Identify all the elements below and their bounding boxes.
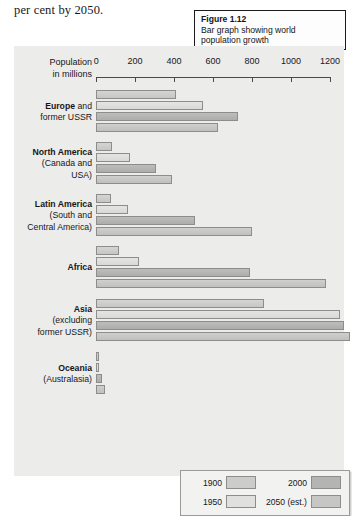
bar-1950-group-1 bbox=[96, 153, 130, 162]
bar-1950-group-2 bbox=[96, 205, 128, 214]
x-axis-tick-label-0: 0 bbox=[94, 56, 99, 66]
x-axis-tick-1200 bbox=[330, 77, 331, 82]
x-axis-tick-label-200: 200 bbox=[127, 56, 142, 66]
group-label-2: Latin America(South andCentral America) bbox=[14, 199, 92, 233]
x-axis-tick-1000 bbox=[291, 77, 292, 82]
bar-1900-group-4 bbox=[96, 299, 264, 308]
legend-label-3: 2050 (est.) bbox=[253, 497, 307, 507]
bar-2050-est--group-5 bbox=[96, 385, 105, 394]
x-axis-tick-label-1200: 1200 bbox=[320, 56, 340, 66]
x-axis-tick-400 bbox=[174, 77, 175, 82]
group-label-3: Africa bbox=[14, 262, 92, 273]
bar-1900-group-5 bbox=[96, 352, 99, 361]
bar-1950-group-5 bbox=[96, 363, 99, 372]
x-axis-tick-600 bbox=[213, 77, 214, 82]
legend-swatch-3 bbox=[311, 495, 341, 508]
bar-1900-group-3 bbox=[96, 246, 119, 255]
bar-2050-est--group-3 bbox=[96, 279, 326, 288]
bar-2000-group-0 bbox=[96, 112, 238, 121]
legend-label-0: 1900 bbox=[191, 478, 222, 488]
figure-caption-title: Figure 1.12 bbox=[201, 14, 340, 25]
axis-caption-line-1: Population bbox=[16, 56, 92, 68]
group-label-4: Asia(excludingformer USSR) bbox=[14, 304, 92, 338]
chart-panel: Population in millions 02004006008001000… bbox=[14, 46, 344, 476]
x-axis-tick-label-800: 800 bbox=[244, 56, 259, 66]
group-label-5: Oceania(Australasia) bbox=[14, 363, 92, 385]
x-axis-tick-label-400: 400 bbox=[166, 56, 181, 66]
figure-caption-line-2: population growth bbox=[201, 35, 340, 45]
bar-1950-group-0 bbox=[96, 101, 203, 110]
axis-caption-line-2: in millions bbox=[16, 68, 92, 80]
group-label-0: Europe andformer USSR bbox=[14, 101, 92, 123]
figure-caption-box: Figure 1.12 Bar graph showing world popu… bbox=[194, 10, 346, 50]
figure-caption-line-1: Bar graph showing world bbox=[201, 25, 340, 35]
legend-swatch-2 bbox=[311, 476, 341, 489]
bar-2050-est--group-1 bbox=[96, 175, 172, 184]
legend-label-2: 2000 bbox=[269, 478, 307, 488]
bar-1950-group-4 bbox=[96, 310, 340, 319]
legend-label-1: 1950 bbox=[191, 497, 222, 507]
bar-1900-group-0 bbox=[96, 90, 176, 99]
bar-1900-group-1 bbox=[96, 142, 112, 151]
bar-2000-group-4 bbox=[96, 321, 344, 330]
bar-2000-group-5 bbox=[96, 374, 102, 383]
x-axis-tick-0 bbox=[96, 77, 97, 82]
bar-2000-group-3 bbox=[96, 268, 250, 277]
bar-1900-group-2 bbox=[96, 194, 111, 203]
x-axis-tick-label-1000: 1000 bbox=[281, 56, 301, 66]
bar-2000-group-2 bbox=[96, 216, 195, 225]
body-paragraph-text: per cent by 2050. bbox=[14, 3, 103, 18]
axis-caption: Population in millions bbox=[16, 56, 92, 80]
bar-2050-est--group-2 bbox=[96, 227, 252, 236]
legend-swatch-0 bbox=[226, 476, 256, 489]
legend-swatch-1 bbox=[226, 495, 256, 508]
bar-1950-group-3 bbox=[96, 257, 139, 266]
bar-2050-est--group-4 bbox=[96, 332, 350, 341]
bar-2050-est--group-0 bbox=[96, 123, 218, 132]
x-axis-tick-label-600: 600 bbox=[205, 56, 220, 66]
x-axis-tick-200 bbox=[135, 77, 136, 82]
chart-legend: 1900195020002050 (est.) bbox=[180, 470, 350, 516]
group-label-1: North America(Canada andUSA) bbox=[14, 147, 92, 181]
x-axis-tick-800 bbox=[252, 77, 253, 82]
bar-2000-group-1 bbox=[96, 164, 156, 173]
